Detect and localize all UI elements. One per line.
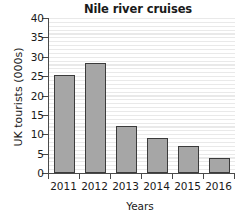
y-tick-label: 30 — [0, 52, 44, 62]
bar-2016[interactable] — [209, 158, 230, 173]
bar-series — [49, 18, 235, 173]
chart-title: Nile river cruises — [40, 2, 236, 16]
bar-2012[interactable] — [85, 63, 106, 173]
x-tick-mark — [110, 173, 111, 179]
plot-area — [48, 18, 235, 174]
x-tick-label-2016: 2016 — [199, 180, 239, 192]
y-tick-label: 40 — [0, 13, 44, 23]
y-tick-label: 0 — [0, 168, 44, 178]
bar-slot — [111, 18, 142, 173]
x-tick-mark — [203, 173, 204, 179]
y-tick-label: 25 — [0, 71, 44, 81]
bar-slot — [49, 18, 80, 173]
bar-slot — [80, 18, 111, 173]
bar-slot — [173, 18, 204, 173]
bar-2013[interactable] — [116, 126, 137, 173]
x-tick-mark — [48, 173, 49, 179]
bar-2011[interactable] — [54, 75, 75, 173]
x-tick-mark — [172, 173, 173, 179]
bar-chart-figure: Nile river cruises UK tourists (000s) 05… — [0, 0, 239, 222]
y-tick-label: 35 — [0, 32, 44, 42]
y-tick-label: 10 — [0, 129, 44, 139]
bar-slot — [142, 18, 173, 173]
y-tick-label: 15 — [0, 110, 44, 120]
x-axis-label: Years — [45, 200, 235, 212]
y-tick-label: 5 — [0, 149, 44, 159]
x-tick-mark — [79, 173, 80, 179]
x-tick-mark — [234, 173, 235, 179]
y-tick-label: 20 — [0, 91, 44, 101]
bar-2015[interactable] — [178, 146, 199, 174]
bar-2014[interactable] — [147, 138, 168, 173]
bar-slot — [204, 18, 235, 173]
x-tick-mark — [141, 173, 142, 179]
